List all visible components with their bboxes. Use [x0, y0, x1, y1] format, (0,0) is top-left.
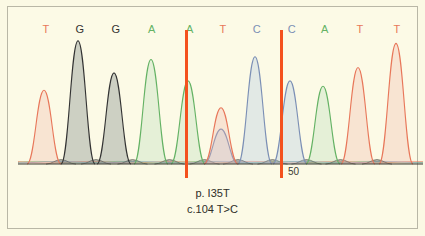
peak-t-1	[27, 90, 61, 164]
trace-panel: TGGAATCCATT 50	[18, 16, 423, 181]
caption-block: p. I35T c.104 T>C	[8, 185, 417, 217]
peak-a-5	[171, 81, 205, 164]
peak-t-10	[341, 68, 375, 164]
peak-t-het-6	[204, 108, 238, 164]
peak-g-2	[61, 41, 95, 164]
position-tick-label: 50	[288, 166, 299, 177]
coding-change-label: c.104 T>C	[8, 201, 417, 217]
mutation-marker-right	[280, 30, 283, 178]
sanger-trace-plot	[18, 16, 423, 181]
figure-frame: TGGAATCCATT 50 p. I35T c.104 T>C	[7, 6, 418, 229]
peak-g-3	[97, 73, 131, 164]
peak-c-7	[238, 57, 272, 164]
chromatogram-figure: TGGAATCCATT 50 p. I35T c.104 T>C	[0, 0, 425, 236]
peak-a-4	[134, 59, 168, 164]
peak-c-8	[273, 81, 307, 164]
protein-change-label: p. I35T	[8, 185, 417, 201]
mutation-marker-left	[185, 30, 188, 178]
peak-t-11	[379, 43, 413, 164]
peak-a-9	[306, 86, 340, 164]
